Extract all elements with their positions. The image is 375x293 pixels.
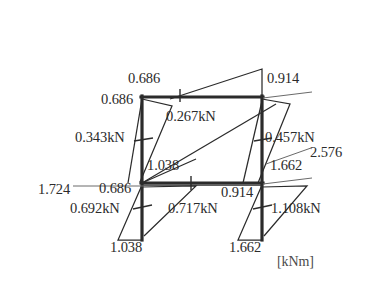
unit-label: [kNm]: [277, 255, 314, 269]
moment-label-mid-beam-left: 1.038: [147, 158, 179, 173]
moment-label-mid-beam-right-bottom: 0.914: [221, 185, 253, 200]
shear-label-upper-right-column: 0.457kN: [265, 130, 315, 145]
bending-moment-diagram-figure: 0.686 0.686 0.914 1.038 1.662 0.686 0.91…: [0, 0, 375, 293]
shear-label-mid-beam: 0.717kN: [168, 201, 218, 216]
moment-label-top-beam-left-top: 0.686: [128, 71, 160, 86]
moment-top-beam: [170, 69, 262, 99]
moment-label-leader-2576: 2.576: [310, 145, 342, 160]
moment-label-mid-left-joint: 0.686: [99, 181, 131, 196]
leader-line-right-top: [263, 92, 312, 98]
moment-label-top-beam-right-top: 0.914: [267, 71, 299, 86]
moment-label-base-right: 1.662: [229, 240, 261, 255]
moment-label-base-left: 1.038: [110, 240, 142, 255]
moment-label-leader-1724: 1.724: [38, 182, 70, 197]
shear-label-lower-right-column: 1.108kN: [271, 201, 321, 216]
shear-label-upper-left-column: 0.343kN: [75, 130, 125, 145]
moment-label-mid-beam-right: 1.662: [270, 158, 302, 173]
shear-label-lower-left-column: 0.692kN: [70, 201, 120, 216]
shear-label-top-beam: 0.267kN: [166, 109, 216, 124]
moment-label-top-left-joint: 0.686: [101, 92, 133, 107]
leader-line-right-mid: [263, 178, 312, 184]
